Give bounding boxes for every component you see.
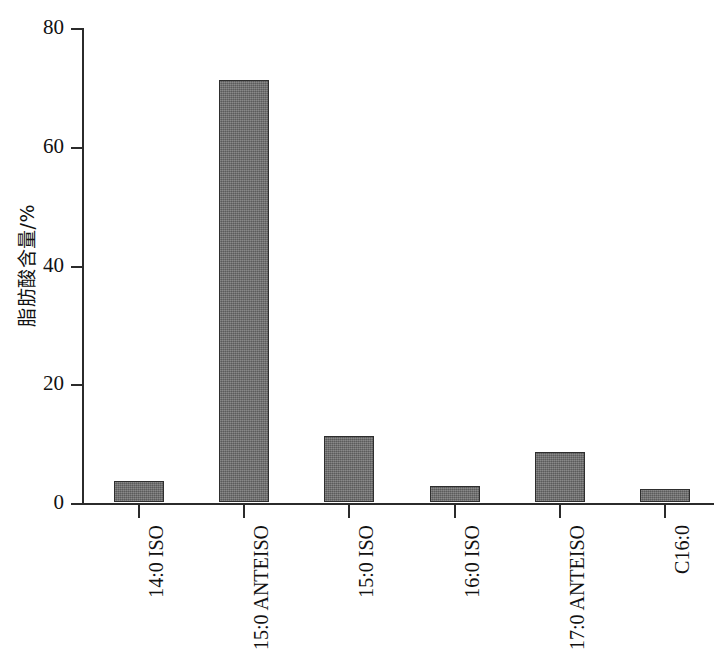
y-tick-40: 40 <box>71 266 82 268</box>
y-tick-label-60: 60 <box>43 135 64 157</box>
plot-area: 020406080 14:0 ISO15:0 ANTEISO15:0 ISO16… <box>82 28 714 503</box>
x-tick <box>559 505 561 518</box>
y-tick-label-20: 20 <box>43 372 64 394</box>
y-tick-80: 80 <box>71 28 82 30</box>
x-tick-label-text: 17:0 ANTEISO <box>567 525 587 650</box>
y-tick-label-80: 80 <box>43 16 64 38</box>
x-tick-label-text: 15:0 ANTEISO <box>251 525 271 650</box>
x-tick <box>138 505 140 518</box>
x-axis-line <box>82 503 714 505</box>
x-tick-label-text: C16:0 <box>672 525 692 574</box>
x-tick-label-text: 15:0 ISO <box>356 525 376 598</box>
x-tick <box>664 505 666 518</box>
y-tick-label-40: 40 <box>43 254 64 276</box>
bar-chart-figure: 脂肪酸含量/% 020406080 14:0 ISO15:0 ANTEISO15… <box>0 0 723 670</box>
y-tick-20: 20 <box>71 384 82 386</box>
y-tick-0: 0 <box>71 503 82 505</box>
y-axis-line <box>82 28 84 504</box>
y-axis-title: 脂肪酸含量/% <box>8 150 42 380</box>
x-tick <box>348 505 350 518</box>
x-tick <box>454 505 456 518</box>
x-tick-label-text: 16:0 ISO <box>462 525 482 598</box>
y-tick-60: 60 <box>71 147 82 149</box>
x-tick <box>243 505 245 518</box>
y-axis-title-text: 脂肪酸含量/% <box>12 204 39 327</box>
y-tick-label-0: 0 <box>54 491 65 513</box>
x-tick-label-text: 14:0 ISO <box>146 525 166 598</box>
